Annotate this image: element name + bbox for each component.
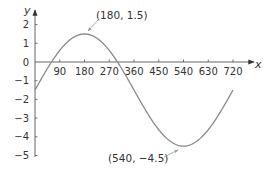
cosine-curve [35, 34, 233, 146]
max-point-label: (180, 1.5) [96, 9, 148, 21]
y-tick-label: 0 [23, 57, 29, 68]
max-point-arrow [88, 20, 98, 31]
y-tick-label: −1 [14, 75, 29, 86]
x-tick-label: 720 [223, 66, 242, 77]
x-tick-label: 270 [100, 66, 119, 77]
y-tick-label: −2 [14, 94, 29, 105]
y-tick-label: 2 [23, 19, 29, 30]
x-tick-label: 360 [124, 66, 143, 77]
y-axis-label: y [23, 4, 31, 17]
x-tick-label: 180 [75, 66, 94, 77]
x-tick-label: 540 [174, 66, 193, 77]
x-axis-label: x [254, 58, 262, 71]
min-point-label: (540, −4.5) [108, 152, 168, 164]
x-tick-label: 630 [199, 66, 218, 77]
y-tick-label: 1 [23, 38, 29, 49]
x-tick-label: 450 [149, 66, 168, 77]
y-ticks: 210−1−2−3−4−5 [14, 19, 37, 161]
y-tick-label: −4 [14, 131, 29, 142]
y-tick-label: −5 [14, 150, 29, 161]
y-tick-label: −3 [14, 113, 29, 124]
x-tick-label: 90 [53, 66, 66, 77]
sine-curve-chart: x y 90180270360450540630720 210−1−2−3−4−… [0, 0, 266, 173]
